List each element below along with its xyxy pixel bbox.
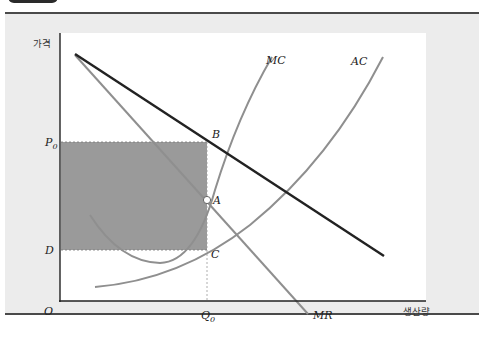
p0-label: P0: [44, 136, 58, 151]
mc-label: MC: [265, 54, 286, 67]
ac-label: AC: [350, 55, 368, 68]
d-label: D: [44, 244, 54, 257]
q0-label: Q0: [201, 309, 215, 324]
origin-label: O: [44, 305, 53, 318]
q0-label-sub: 0: [210, 315, 215, 324]
point-c-label: C: [211, 248, 220, 261]
mr-label: MR: [312, 309, 333, 322]
profit-area: [61, 142, 207, 250]
q0-label-main: Q: [201, 309, 210, 322]
p0-label-sub: 0: [52, 142, 57, 151]
point-a-label: A: [212, 194, 221, 207]
point-b-label: B: [211, 128, 220, 141]
point-a-marker: [203, 196, 210, 203]
monopoly-diagram: 가격 생산량 O P0 D Q0 B A C MC AC MR: [0, 0, 487, 345]
y-axis-label: 가격: [33, 38, 51, 49]
x-axis-label: 생산량: [403, 306, 430, 317]
